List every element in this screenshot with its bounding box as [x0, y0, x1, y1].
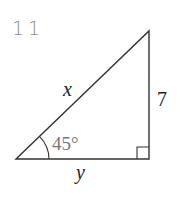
hypotenuse-label: x — [62, 78, 72, 100]
angle-label: 45° — [52, 133, 79, 154]
side-label: 7 — [157, 88, 167, 110]
angle-arc — [40, 136, 50, 159]
right-angle-marker — [137, 147, 149, 159]
base-label: y — [74, 161, 85, 184]
triangle-outline — [16, 31, 149, 159]
triangle-diagram: x 7 45° y — [0, 0, 187, 201]
